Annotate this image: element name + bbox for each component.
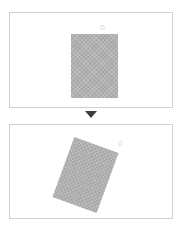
panel-before (9, 12, 173, 108)
anchor-point-marker-before (100, 25, 105, 30)
figure-stage (0, 0, 182, 226)
panel-after (9, 124, 173, 219)
arrow-down-icon (85, 111, 97, 118)
hatched-rectangle-before (71, 34, 118, 98)
hatched-rectangle-after (52, 137, 118, 213)
anchor-point-marker-after (118, 141, 123, 146)
